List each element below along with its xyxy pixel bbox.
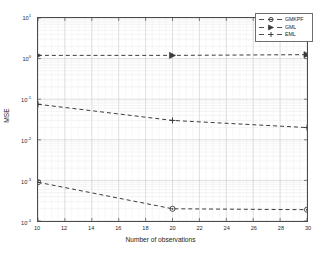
x-tick-label: 26 [251,225,257,231]
y-tick-label: 10-2 [21,136,31,144]
legend-item-eml: EML [258,31,310,39]
legend-label: GML [285,24,296,31]
x-axis-ticks: 1012141618202224262830 [37,225,308,235]
y-tick-exponent: 1 [29,13,31,18]
y-tick-exponent: -1 [27,95,31,100]
data-series-layer [38,18,307,221]
x-tick-label: 12 [61,225,67,231]
legend-sample-eml [258,31,284,38]
y-tick-label: 101 [22,13,31,21]
y-tick-exponent: -2 [27,136,31,141]
y-tick-label: 10-3 [21,177,31,185]
y-tick-label: 10-1 [21,95,31,103]
y-axis-title: MSE [3,96,10,136]
x-tick-label: 22 [196,225,202,231]
plot-area [37,17,308,222]
series-gmkpf [37,180,308,213]
x-tick-label: 24 [224,225,230,231]
y-tick-exponent: 0 [29,54,31,59]
x-tick-label: 20 [169,225,175,231]
x-axis-title: Number of observations [0,236,321,243]
x-tick-label: 28 [278,225,284,231]
legend-label: EML [285,31,296,38]
chart-figure: 10110010-110-210-310-4 10121416182022242… [0,0,321,258]
x-tick-label: 10 [34,225,40,231]
legend-sample-gmkpf [258,16,284,23]
legend-item-gml: GML [258,24,310,32]
legend-item-gmkpf: GMKPF [258,16,310,24]
x-tick-label: 30 [305,225,311,231]
y-tick-exponent: -4 [27,218,31,223]
legend-label: GMKPF [285,16,303,23]
series-gml [37,52,308,59]
series-eml [37,101,308,130]
y-tick-exponent: -3 [27,177,31,182]
legend-sample-gml [258,24,284,31]
y-tick-label: 100 [22,54,31,62]
x-tick-label: 16 [115,225,121,231]
x-tick-label: 18 [142,225,148,231]
y-tick-label: 10-4 [21,218,31,226]
legend: GMKPFGMLEML [255,13,313,42]
x-tick-label: 14 [88,225,94,231]
